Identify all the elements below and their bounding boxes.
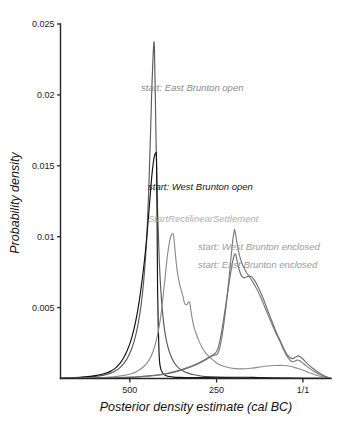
x-axis-ticks: 5002501/1 — [122, 379, 309, 395]
y-tick-label: 0.02 — [37, 90, 55, 100]
y-tick-label: 0.005 — [32, 303, 55, 313]
y-tick-label: 0.025 — [32, 19, 55, 29]
series-annotation-0: start: East Brunton open — [141, 82, 243, 93]
series-annotation-4: start: East Brunton enclosed — [198, 259, 318, 270]
x-tick-label: 250 — [209, 385, 224, 395]
y-axis-ticks: 0.0050.010.0150.020.025 — [32, 19, 61, 313]
x-axis-title: Posterior density estimate (cal BC) — [100, 400, 292, 414]
y-tick-label: 0.015 — [32, 161, 55, 171]
x-tick-label: 500 — [122, 385, 137, 395]
y-axis-title: Probability density — [8, 152, 22, 254]
figure-container: 0.0050.010.0150.020.025 5002501/1 Poster… — [0, 0, 351, 441]
series-annotation-3: start: West Brunton enclosed — [198, 241, 321, 252]
axes-group — [61, 24, 332, 379]
y-tick-label: 0.01 — [37, 232, 55, 242]
density-curve-2 — [61, 233, 332, 378]
series-annotation-2: StartRectilinearSettlement — [148, 213, 259, 224]
density-plot: 0.0050.010.0150.020.025 5002501/1 Poster… — [0, 0, 351, 441]
series-annotations-group: start: East Brunton openstart: West Brun… — [141, 82, 321, 270]
density-curve-4 — [61, 254, 332, 379]
series-annotation-1: start: West Brunton open — [148, 181, 253, 192]
x-tick-label: 1/1 — [297, 385, 310, 395]
